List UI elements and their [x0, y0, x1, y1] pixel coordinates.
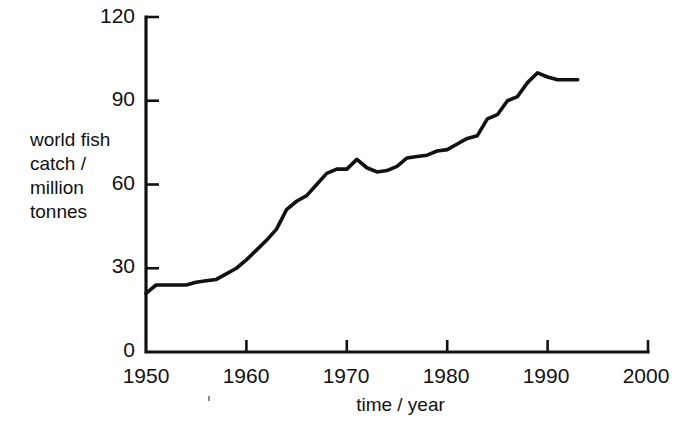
axes-lines [146, 17, 648, 352]
x-tick-label-1970: 1970 [306, 364, 386, 388]
x-tick-label-1950: 1950 [106, 364, 186, 388]
x-axis-label: time / year [0, 394, 685, 416]
scan-speck [208, 396, 210, 401]
x-tick-label-1990: 1990 [506, 364, 586, 388]
chart-figure: world fish catch / million tonnes time /… [0, 0, 685, 432]
tick-marks [146, 17, 648, 352]
y-tick-label-120: 120 [63, 4, 135, 28]
x-tick-label-1960: 1960 [206, 364, 286, 388]
y-tick-label-30: 30 [63, 254, 135, 278]
x-tick-label-1980: 1980 [406, 364, 486, 388]
y-tick-label-0: 0 [63, 338, 135, 362]
x-axis-label-text: time / year [356, 394, 445, 415]
data-series-line [146, 73, 578, 294]
y-tick-label-90: 90 [63, 87, 135, 111]
x-tick-label-2000: 2000 [606, 364, 685, 388]
y-tick-label-60: 60 [63, 171, 135, 195]
